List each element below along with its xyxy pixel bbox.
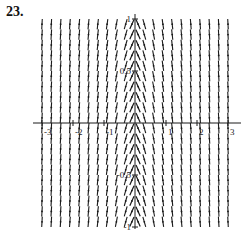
segment-midpoint	[50, 159, 52, 161]
segment-midpoint	[41, 200, 43, 202]
segment-midpoint	[143, 211, 145, 213]
segment-midpoint	[199, 55, 201, 57]
segment-midpoint	[50, 117, 52, 119]
direction-field-plot: -3-2-1123 10.5-0.5-1	[0, 0, 251, 231]
y-tick-label: 0.5	[120, 66, 132, 76]
segment-midpoint	[88, 55, 90, 57]
segment-midpoint	[116, 159, 118, 161]
segment-midpoint	[41, 117, 43, 119]
segment-midpoint	[199, 23, 201, 25]
segment-midpoint	[41, 221, 43, 223]
segment-midpoint	[50, 200, 52, 202]
segment-midpoint	[162, 44, 164, 46]
segment-midpoint	[88, 86, 90, 88]
segment-midpoint	[171, 221, 173, 223]
segment-midpoint	[218, 75, 220, 77]
segment-midpoint	[97, 75, 99, 77]
segment-midpoint	[97, 221, 99, 223]
segment-midpoint	[97, 179, 99, 181]
segment-midpoint	[125, 159, 127, 161]
segment-midpoint	[218, 86, 220, 88]
segment-midpoint	[190, 169, 192, 171]
segment-midpoint	[181, 34, 183, 36]
segment-midpoint	[69, 44, 71, 46]
segment-midpoint	[143, 127, 145, 129]
segment-midpoint	[171, 169, 173, 171]
segment-midpoint	[218, 23, 220, 25]
segment-midpoint	[171, 96, 173, 98]
segment-midpoint	[218, 44, 220, 46]
segment-midpoint	[131, 190, 133, 192]
segment-midpoint	[143, 55, 145, 57]
segment-midpoint	[227, 44, 229, 46]
segment-midpoint	[78, 159, 80, 161]
segment-midpoint	[50, 107, 52, 109]
segment-midpoint	[116, 127, 118, 129]
segment-midpoint	[50, 96, 52, 98]
segment-midpoint	[50, 148, 52, 150]
segment-midpoint	[153, 179, 155, 181]
segment-midpoint	[218, 34, 220, 36]
segment-midpoint	[227, 138, 229, 140]
segment-midpoint	[88, 117, 90, 119]
x-tick-label: -1	[106, 127, 114, 137]
segment-midpoint	[162, 127, 164, 129]
segment-midpoint	[199, 148, 201, 150]
segment-midpoint	[190, 221, 192, 223]
segment-midpoint	[143, 86, 145, 88]
segment-midpoint	[190, 65, 192, 67]
segment-midpoint	[143, 200, 145, 202]
segment-midpoint	[209, 75, 211, 77]
segment-midpoint	[106, 169, 108, 171]
segment-midpoint	[181, 117, 183, 119]
segment-midpoint	[199, 117, 201, 119]
segment-midpoint	[199, 221, 201, 223]
segment-midpoint	[41, 55, 43, 57]
segment-midpoint	[153, 221, 155, 223]
segment-midpoint	[88, 221, 90, 223]
segment-midpoint	[137, 107, 139, 109]
segment-midpoint	[162, 75, 164, 77]
segment-midpoint	[171, 65, 173, 67]
segment-midpoint	[131, 200, 133, 202]
segment-midpoint	[60, 107, 62, 109]
segment-midpoint	[181, 107, 183, 109]
segment-midpoint	[162, 179, 164, 181]
segment-midpoint	[162, 107, 164, 109]
segment-midpoint	[106, 65, 108, 67]
segment-midpoint	[69, 34, 71, 36]
segment-midpoint	[78, 75, 80, 77]
segment-midpoint	[97, 117, 99, 119]
segment-midpoint	[125, 86, 127, 88]
segment-midpoint	[171, 179, 173, 181]
segment-midpoint	[88, 190, 90, 192]
segment-midpoint	[162, 200, 164, 202]
segment-midpoint	[60, 96, 62, 98]
segment-midpoint	[181, 127, 183, 129]
segment-midpoint	[190, 211, 192, 213]
segment-midpoint	[125, 44, 127, 46]
segment-midpoint	[131, 148, 133, 150]
segment-midpoint	[78, 169, 80, 171]
segment-midpoint	[125, 107, 127, 109]
segment-midpoint	[153, 55, 155, 57]
segment-midpoint	[97, 159, 99, 161]
segment-midpoint	[209, 34, 211, 36]
segment-midpoint	[209, 86, 211, 88]
segment-midpoint	[116, 117, 118, 119]
segment-midpoint	[137, 96, 139, 98]
segment-midpoint	[78, 107, 80, 109]
segment-midpoint	[60, 55, 62, 57]
segment-midpoint	[190, 179, 192, 181]
segment-midpoint	[190, 23, 192, 25]
segment-midpoint	[88, 159, 90, 161]
segment-midpoint	[125, 211, 127, 213]
segment-midpoint	[190, 148, 192, 150]
segment-midpoint	[97, 23, 99, 25]
segment-midpoint	[199, 75, 201, 77]
segment-midpoint	[116, 55, 118, 57]
segment-midpoint	[227, 190, 229, 192]
segment-midpoint	[162, 117, 164, 119]
segment-midpoint	[41, 159, 43, 161]
segment-midpoint	[78, 211, 80, 213]
